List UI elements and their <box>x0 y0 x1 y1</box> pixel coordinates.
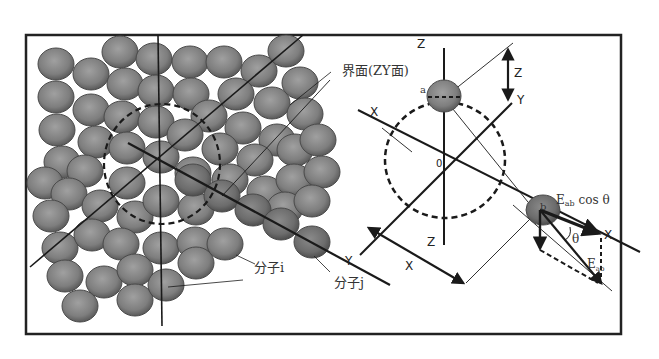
right-panel-axes <box>358 43 640 291</box>
angle-label: θ <box>572 232 579 246</box>
x-axis-label-right: X <box>604 228 612 242</box>
z-axis-label-bottom: Z <box>427 235 435 249</box>
y-axis-label-right: Y <box>516 93 525 107</box>
force-label: Eab <box>587 257 605 273</box>
z-distance-label: Z <box>514 66 522 80</box>
molecule-i-label: 分子i <box>254 260 284 275</box>
molecule-b-label: b <box>540 201 546 212</box>
z-axis-label-top: Z <box>417 37 425 51</box>
interface-label: 界面(ZY面) <box>342 63 409 78</box>
force-component-label: Eab cos θ <box>556 193 610 208</box>
molecule-a-label: a <box>420 84 426 95</box>
interface-molecule-diagram: 界面(ZY面) 分子i 分子j Z Z Y X 0 a <box>0 0 659 359</box>
origin-label: 0 <box>436 158 442 169</box>
force-vectors <box>540 210 601 283</box>
molecule-cluster <box>27 35 340 322</box>
x-distance-label: X <box>405 259 413 273</box>
molecule-j-label: 分子j <box>334 275 364 290</box>
x-axis-label-left: X <box>370 105 378 119</box>
y-axis-label-left: Y <box>344 254 353 268</box>
